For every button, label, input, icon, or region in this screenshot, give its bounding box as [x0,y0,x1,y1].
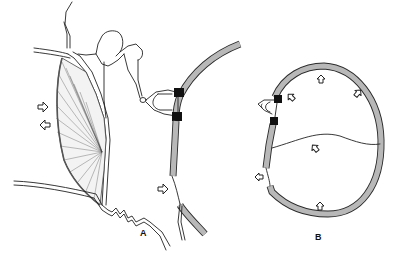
panel-a-label: A [140,228,147,238]
annular-ligament-b-bottom [270,117,278,125]
arrow-center-icon [309,142,320,153]
panel-b-label: B [315,232,322,242]
annular-ligament-b-top [274,95,282,103]
arrow-left-top-icon [285,91,296,102]
internal-partition [272,134,380,148]
tympanic-membrane [56,58,106,205]
arrow-bottom-icon [316,202,324,210]
canal-upper-wall [34,2,72,58]
panel-b: B [255,66,381,242]
curved-wall-lower [178,204,205,240]
arrow-right-upper-icon [38,102,48,112]
window-membrane-b [266,168,270,186]
ear-diagram: A [0,0,401,259]
round-window-membrane [172,176,180,204]
arrow-up-top-icon [317,75,325,83]
curved-wall-middle [173,121,176,176]
arrow-left-lower-icon [40,120,50,130]
curved-wall-upper [176,44,240,118]
arrow-left-outside-icon [255,173,263,181]
arrow-right-window-icon [158,184,168,194]
stapes-b [258,100,274,114]
annular-ligament-top [174,88,184,97]
panel-a: A [14,2,240,250]
oval-chamber-wall [266,66,381,214]
annular-ligament-bottom [172,112,182,121]
